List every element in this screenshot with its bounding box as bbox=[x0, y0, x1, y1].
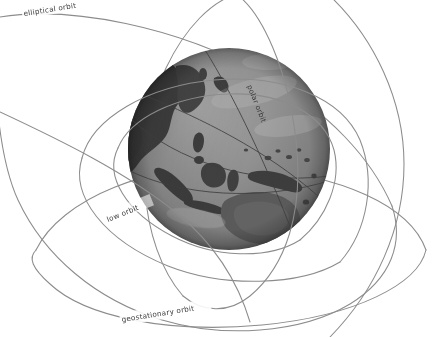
orbit-diagram-canvas: elliptical orbit polar orbit low orbit g… bbox=[0, 0, 433, 337]
label-geostationary-orbit: geostationary orbit bbox=[121, 304, 195, 324]
label-halos bbox=[21, 0, 212, 326]
orbit-label-layer: elliptical orbit polar orbit low orbit g… bbox=[0, 0, 433, 337]
label-polar-orbit: polar orbit bbox=[245, 83, 268, 124]
